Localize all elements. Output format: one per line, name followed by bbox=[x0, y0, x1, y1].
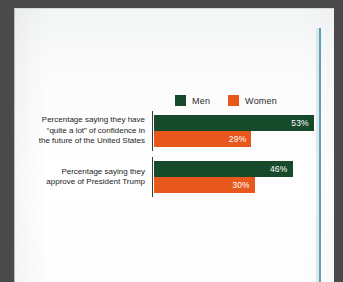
bar-group-confidence: Percentage saying they have “quite a lot… bbox=[35, 115, 325, 147]
bars-container-approval: 46% 30% bbox=[152, 161, 325, 193]
category-label-confidence: Percentage saying they have “quite a lot… bbox=[35, 115, 152, 147]
bar-row-men-approval: 46% bbox=[154, 161, 325, 177]
screenshot-root: Men Women Percentage saying they have “q… bbox=[0, 0, 343, 282]
chart-legend: Men Women bbox=[175, 95, 277, 106]
bar-row-women-approval: 30% bbox=[154, 177, 325, 193]
bar-group-approval: Percentage saying they approve of Presid… bbox=[35, 161, 325, 193]
grouped-bar-chart: Men Women Percentage saying they have “q… bbox=[15, 9, 334, 282]
category-axis-line bbox=[152, 111, 153, 151]
legend-label-women: Women bbox=[245, 96, 277, 106]
legend-entry-men[interactable]: Men bbox=[175, 95, 210, 106]
legend-entry-women[interactable]: Women bbox=[228, 95, 277, 106]
bars-container-confidence: 53% 29% bbox=[152, 115, 325, 147]
bar-value-women-approval: 30% bbox=[232, 180, 250, 190]
bar-row-men-confidence: 53% bbox=[154, 115, 325, 131]
bar-value-women-confidence: 29% bbox=[229, 134, 247, 144]
bar-women-approval[interactable]: 30% bbox=[154, 177, 255, 193]
bar-men-confidence[interactable]: 53% bbox=[154, 115, 314, 131]
page-edge-rule bbox=[319, 28, 321, 282]
bar-value-men-confidence: 53% bbox=[291, 118, 309, 128]
category-label-approval: Percentage saying they approve of Presid… bbox=[35, 167, 152, 188]
bar-value-men-approval: 46% bbox=[270, 164, 288, 174]
bar-row-women-confidence: 29% bbox=[154, 131, 325, 147]
legend-label-men: Men bbox=[192, 96, 210, 106]
scanned-page: Men Women Percentage saying they have “q… bbox=[14, 8, 334, 282]
legend-swatch-men-icon bbox=[175, 95, 186, 106]
category-axis-line bbox=[152, 157, 153, 197]
plot-area: Percentage saying they have “quite a lot… bbox=[35, 115, 325, 193]
legend-swatch-women-icon bbox=[228, 95, 239, 106]
bar-women-confidence[interactable]: 29% bbox=[154, 131, 251, 147]
bar-men-approval[interactable]: 46% bbox=[154, 161, 293, 177]
